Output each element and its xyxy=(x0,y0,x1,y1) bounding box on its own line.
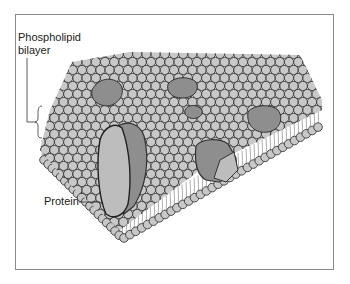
label-phospholipid: Phospholipid xyxy=(18,31,81,43)
label-bilayer: bilayer xyxy=(18,44,50,56)
label-protein: Protein xyxy=(44,195,79,207)
protein-surface-4 xyxy=(248,106,281,133)
protein-surface-2 xyxy=(168,78,198,98)
protein-surface-3 xyxy=(185,106,203,119)
bilayer-brace xyxy=(35,106,42,138)
bilayer-leader-line xyxy=(27,58,36,122)
transmembrane-protein xyxy=(98,125,130,216)
